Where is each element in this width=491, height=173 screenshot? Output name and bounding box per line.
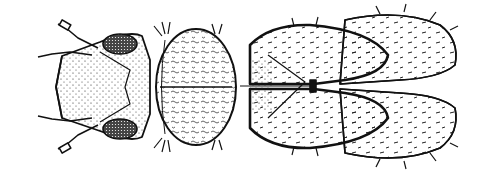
head — [56, 34, 150, 139]
thorax — [156, 29, 236, 145]
compound-eye-bottom — [103, 119, 137, 139]
figure — [0, 0, 491, 173]
forewings — [240, 25, 388, 148]
insect-illustration — [0, 0, 491, 173]
compound-eye-top — [103, 34, 137, 54]
